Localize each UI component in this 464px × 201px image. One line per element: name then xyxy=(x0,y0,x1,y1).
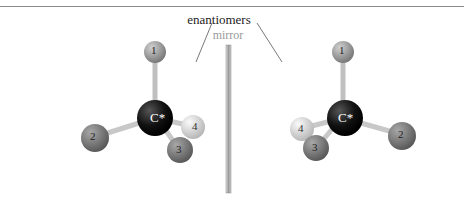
atom-label-3-right: 3 xyxy=(312,141,318,153)
mirror-label: mirror xyxy=(213,28,244,43)
pointer-line-right xyxy=(257,23,282,62)
atom-label-3-left: 3 xyxy=(176,143,182,155)
atom-label-4-left: 4 xyxy=(192,120,198,132)
atom-label-2-left: 2 xyxy=(90,130,96,142)
pointer-line-left xyxy=(196,23,212,62)
carbon-label-left: C* xyxy=(150,110,165,126)
mirror-plane xyxy=(226,45,231,193)
atom-label-2-right: 2 xyxy=(398,128,404,140)
atom-label-1-right: 1 xyxy=(339,44,345,56)
atom-label-1-left: 1 xyxy=(151,44,157,56)
carbon-label-right: C* xyxy=(338,110,353,126)
right-molecule xyxy=(290,41,416,161)
figure-title: enantiomers xyxy=(187,12,251,28)
left-molecule xyxy=(81,41,205,163)
atom-label-4-right: 4 xyxy=(298,122,304,134)
